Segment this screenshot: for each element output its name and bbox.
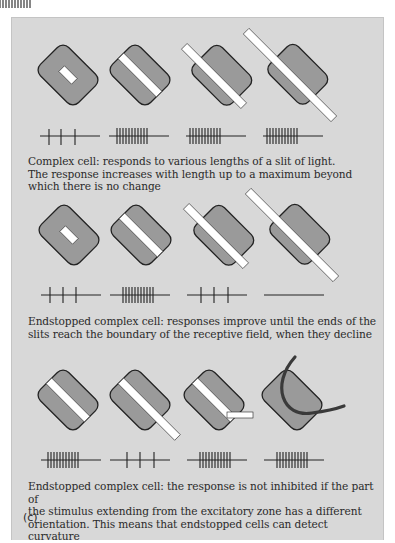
receptive-field-3-4 xyxy=(259,367,325,433)
row3-stimuli xyxy=(35,357,344,452)
receptive-field-2-3 xyxy=(176,188,264,276)
orthogonal-extension xyxy=(227,412,253,418)
receptive-field-1-4 xyxy=(236,13,352,129)
receptive-field-1-3 xyxy=(174,28,262,116)
receptive-field-1-1 xyxy=(35,42,101,108)
receptive-field-3-1 xyxy=(35,367,101,433)
receptive-field-3-3 xyxy=(181,367,247,433)
caption-endstopped-length: Endstopped complex cell: responses impro… xyxy=(28,315,378,340)
receptive-field-2-2 xyxy=(108,202,174,268)
row2-spike-trains xyxy=(41,287,324,303)
panel-label: (c) xyxy=(23,511,38,524)
caption-endstopped-curvature: Endstopped complex cell: the response is… xyxy=(28,480,378,543)
receptive-field-3-2 xyxy=(107,367,192,452)
receptive-field-2-1 xyxy=(36,202,102,268)
receptive-field-1-2 xyxy=(107,42,173,108)
row1-stimuli xyxy=(35,13,352,129)
row3-spike-trains xyxy=(41,452,324,468)
caption-complex-cell: Complex cell: responds to various length… xyxy=(28,155,378,193)
